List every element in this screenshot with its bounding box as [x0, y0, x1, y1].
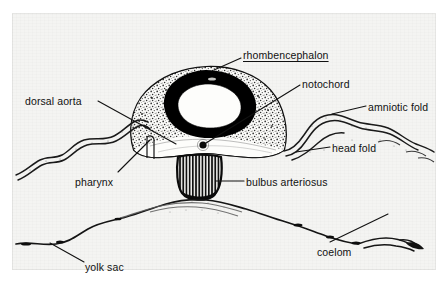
label-notochord: notochord [302, 79, 350, 90]
leader-yolk-sac [50, 243, 84, 262]
bulbus-arteriosus-structure [177, 155, 222, 200]
leader-amniotic-fold [332, 106, 366, 114]
figure-root: rhombencephalonnotochordamniotic foldhea… [0, 0, 448, 283]
amniotic-fold-left [16, 120, 150, 180]
label-amniotic_fold: amniotic fold [368, 102, 428, 113]
label-bulbus_arteriosus: bulbus arteriosus [246, 177, 328, 188]
label-coelom: coelom [317, 247, 351, 258]
embryo-section-illustration [0, 0, 448, 283]
yolk-sac-membrane-inner [120, 203, 242, 218]
membrane-dark-nodes [21, 218, 361, 246]
label-yolk_sac: yolk sac [85, 262, 124, 273]
label-rhombencephalon: rhombencephalon [243, 50, 329, 61]
label-pharynx: pharynx [75, 177, 113, 188]
label-head_fold: head fold [332, 143, 376, 154]
label-dorsal_aorta: dorsal aorta [25, 96, 82, 107]
